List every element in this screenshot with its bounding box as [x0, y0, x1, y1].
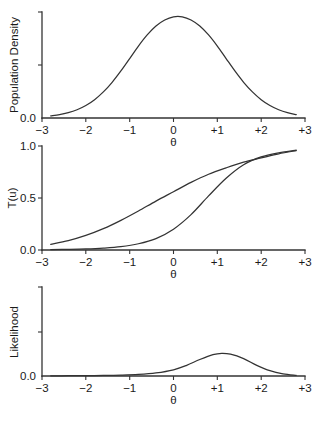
- transform-ytick-label-0.5: 0.5: [20, 192, 36, 204]
- transform-ytick-label-0.0: 0.0: [20, 244, 36, 256]
- likelihood-ytick-label-0: 0.0: [20, 370, 36, 382]
- transform-plot-svg: 1.0 0.5 0.0 T(u) −3 −2 −1 0 +1 +2 +3 θ: [0, 135, 323, 280]
- curve-transformation-shallow: [51, 151, 296, 245]
- likelihood-xtick-label--2: −2: [79, 382, 92, 394]
- transform-ytick-label-1.0: 1.0: [20, 140, 36, 152]
- density-ytick-label-0: 0.0: [20, 112, 36, 124]
- likelihood-xtick-label--1: −1: [123, 382, 136, 394]
- transform-xtick-label-0: 0: [170, 256, 176, 268]
- panel-likelihood: 0.0 Likelihood −3 −2 −1 0 +1 +2 +3 θ: [0, 276, 323, 426]
- likelihood-x-axis-label: θ: [170, 394, 176, 406]
- density-plot-svg: 0.0 Population Density −3 −2 −1 0 +1 +2 …: [0, 0, 323, 145]
- transform-x-tick-labels: −3 −2 −1 0 +1 +2 +3: [35, 256, 311, 268]
- likelihood-plot-svg: 0.0 Likelihood −3 −2 −1 0 +1 +2 +3 θ: [0, 276, 323, 426]
- transform-xtick-label--2: −2: [79, 256, 92, 268]
- likelihood-xtick-label-3: +3: [298, 382, 311, 394]
- panel-transformation: 1.0 0.5 0.0 T(u) −3 −2 −1 0 +1 +2 +3 θ: [0, 135, 323, 280]
- panel-population-density: 0.0 Population Density −3 −2 −1 0 +1 +2 …: [0, 0, 323, 145]
- transform-xtick-label-2: +2: [255, 256, 268, 268]
- likelihood-xtick-label-0: 0: [170, 382, 176, 394]
- transform-xtick-label--3: −3: [35, 256, 48, 268]
- likelihood-axes: [38, 287, 305, 380]
- density-axes: [38, 12, 305, 122]
- curve-likelihood: [51, 353, 296, 376]
- transform-xtick-label-1: +1: [211, 256, 224, 268]
- transform-y-axis-label: T(u): [6, 187, 18, 208]
- transform-xtick-label-3: +3: [298, 256, 311, 268]
- likelihood-xtick-label--3: −3: [35, 382, 48, 394]
- likelihood-xtick-label-1: +1: [211, 382, 224, 394]
- likelihood-xtick-label-2: +2: [255, 382, 268, 394]
- figure-three-panel-plot: 0.0 Population Density −3 −2 −1 0 +1 +2 …: [0, 0, 323, 426]
- likelihood-y-axis-label: Likelihood: [8, 306, 20, 358]
- density-y-axis-label: Population Density: [8, 17, 20, 113]
- transform-xtick-label--1: −1: [123, 256, 136, 268]
- likelihood-x-tick-labels: −3 −2 −1 0 +1 +2 +3: [35, 382, 311, 394]
- curve-population-density: [51, 16, 296, 116]
